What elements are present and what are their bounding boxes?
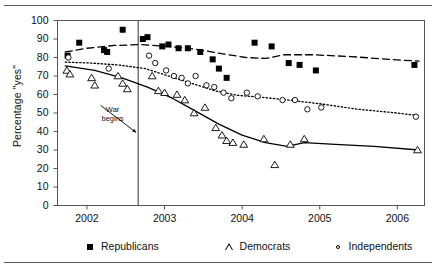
data-point: [176, 45, 182, 51]
legend-label: Independents: [349, 240, 413, 252]
open-triangle-icon: [224, 241, 236, 251]
data-point: [185, 81, 190, 86]
data-point: [190, 109, 198, 115]
data-point: [173, 91, 181, 97]
data-point: [210, 56, 216, 62]
data-point: [171, 73, 176, 78]
data-point: [255, 94, 260, 99]
data-point: [286, 60, 292, 66]
data-point: [76, 40, 82, 46]
data-point: [66, 55, 71, 60]
legend-entry-independents[interactable]: Independents: [333, 240, 425, 252]
trendline-independents: [65, 62, 419, 116]
data-point: [271, 161, 279, 167]
filled-square-icon: [85, 241, 97, 251]
data-point: [319, 105, 324, 110]
data-point: [292, 97, 297, 102]
data-point: [229, 96, 234, 101]
data-point: [145, 34, 151, 40]
data-point: [185, 45, 191, 51]
legend-entry-republicans[interactable]: Republicans: [57, 240, 224, 252]
trendline-republicans: [65, 45, 419, 62]
data-point: [305, 107, 310, 112]
data-point: [148, 72, 156, 78]
data-point: [212, 124, 220, 130]
data-point: [104, 49, 110, 55]
war-begins-annotation-arrow-shaft: [101, 105, 137, 132]
marker-glyph: [87, 244, 93, 250]
data-point: [260, 135, 268, 141]
data-point: [120, 27, 126, 33]
data-point: [179, 75, 184, 80]
data-point: [119, 80, 127, 86]
legend-entry-democrats[interactable]: Democrats: [224, 240, 333, 252]
data-point: [269, 43, 275, 49]
data-point: [163, 68, 168, 73]
marker-glyph: [225, 243, 233, 250]
data-point: [297, 62, 303, 68]
data-point: [244, 90, 249, 95]
legend-label: Democrats: [240, 240, 291, 252]
chart-legend: RepublicansDemocratsIndependents: [57, 238, 425, 254]
data-point: [252, 40, 258, 46]
data-point: [413, 114, 418, 119]
plot-canvas: [0, 0, 436, 273]
data-point: [411, 62, 417, 68]
data-point: [197, 49, 203, 55]
data-point: [193, 73, 198, 78]
data-point: [280, 97, 285, 102]
open-circle-icon: [333, 241, 345, 251]
data-point: [313, 67, 319, 73]
data-point: [224, 75, 230, 81]
data-point: [165, 42, 171, 48]
data-point: [216, 66, 222, 72]
data-point: [201, 104, 209, 110]
data-point: [212, 84, 217, 89]
plot-frame: [58, 21, 425, 206]
data-point: [286, 141, 294, 147]
data-point: [106, 66, 111, 71]
marker-glyph: [336, 245, 340, 249]
data-point: [153, 60, 158, 65]
data-point: [300, 135, 308, 141]
data-point: [88, 74, 96, 80]
data-point: [91, 82, 99, 88]
data-point: [218, 132, 226, 138]
data-point: [221, 90, 226, 95]
data-point: [146, 53, 151, 58]
legend-label: Republicans: [101, 240, 159, 252]
figure-panel: Percentage "yes" 0102030405060708090100 …: [0, 0, 436, 273]
data-point: [204, 83, 209, 88]
data-point: [159, 43, 165, 49]
data-point: [240, 141, 248, 147]
data-point: [181, 96, 189, 102]
